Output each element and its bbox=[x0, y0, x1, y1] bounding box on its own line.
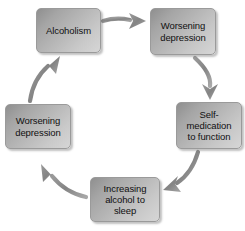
arrow-selfmed-to-increasing bbox=[163, 152, 198, 192]
node-worsening-depression-left[interactable]: Worsening depression bbox=[5, 104, 71, 149]
node-worsening-depression-top[interactable]: Worsening depression bbox=[150, 8, 216, 55]
node-self-medication[interactable]: Self- medication to function bbox=[176, 102, 242, 149]
node-alcoholism-label: Alcoholism bbox=[44, 25, 93, 36]
node-alcoholism[interactable]: Alcoholism bbox=[36, 8, 101, 53]
diagram-canvas: Alcoholism Worsening depression Self- me… bbox=[0, 0, 245, 231]
node-increasing-alcohol[interactable]: Increasing alcohol to sleep bbox=[90, 177, 160, 222]
node-worsening-depression-top-label: Worsening depression bbox=[158, 20, 207, 42]
node-increasing-alcohol-label: Increasing alcohol to sleep bbox=[102, 183, 149, 217]
arrow-alcoholism-to-worsening bbox=[103, 13, 146, 29]
node-self-medication-label: Self- medication to function bbox=[185, 109, 234, 143]
arrow-worsening-to-selfmed bbox=[195, 58, 218, 100]
arrow-increasing-to-worsening2 bbox=[41, 164, 86, 197]
node-worsening-depression-left-label: Worsening depression bbox=[13, 115, 62, 137]
arrow-worsening2-to-alcoholism bbox=[30, 56, 60, 101]
